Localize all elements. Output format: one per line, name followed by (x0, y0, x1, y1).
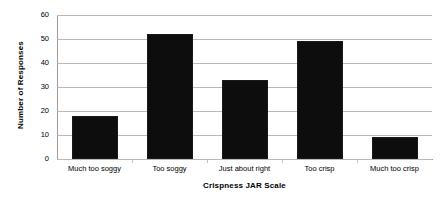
gridline (57, 39, 432, 40)
x-tickmark (282, 160, 283, 163)
x-tick-label: Much too soggy (57, 163, 132, 174)
y-tick-label: 0 (0, 155, 53, 163)
bar-chart: Number of Responses 0102030405060 Much t… (0, 0, 447, 200)
x-axis-tick-labels: Much too soggyToo soggyJust about rightT… (57, 163, 432, 177)
y-tick-label: 60 (0, 11, 53, 19)
y-tick-label: 20 (0, 107, 53, 115)
bar (222, 80, 268, 159)
x-tick-label: Too crisp (282, 163, 357, 174)
x-tick-label: Just about right (207, 163, 282, 174)
y-tick-label: 50 (0, 35, 53, 43)
bar (372, 137, 418, 159)
x-tick-label: Too soggy (132, 163, 207, 174)
x-tickmark (132, 160, 133, 163)
x-tickmark (207, 160, 208, 163)
y-tick-label: 30 (0, 83, 53, 91)
y-tick-label: 40 (0, 59, 53, 67)
x-tick-label: Much too crisp (357, 163, 432, 174)
y-tick-label: 10 (0, 131, 53, 139)
plot-area (57, 15, 432, 159)
x-tickmark (357, 160, 358, 163)
bar (72, 116, 118, 159)
y-axis-tick-labels: 0102030405060 (0, 15, 57, 159)
gridline (57, 63, 432, 64)
gridline (57, 15, 432, 16)
bar (147, 34, 193, 159)
gridline (57, 159, 432, 160)
bar (297, 41, 343, 159)
x-axis-title: Crispness JAR Scale (57, 181, 432, 191)
